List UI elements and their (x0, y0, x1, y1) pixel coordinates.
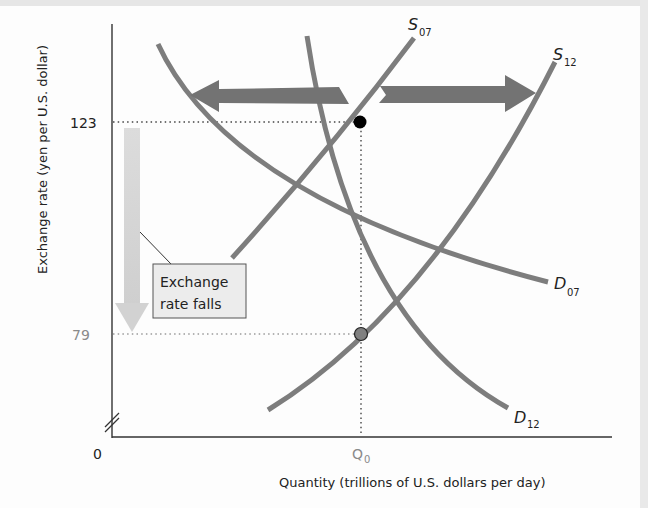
forex-market-diagram: 123 79 0 Q 0 Quantity (trillions of U.S.… (0, 0, 648, 508)
svg-text:12: 12 (527, 419, 540, 430)
exchange-rate-falls-callout: Exchange rate falls (153, 264, 246, 318)
svg-text:S: S (553, 45, 563, 64)
y-tick-123: 123 (70, 115, 97, 131)
demand-decrease-arrow (190, 80, 349, 112)
svg-text:0: 0 (364, 454, 370, 465)
supply-increase-arrow (379, 75, 536, 112)
x-tick-q0: Q 0 (352, 446, 370, 465)
label-d07: D 07 (554, 274, 580, 298)
svg-text:D: D (554, 274, 566, 293)
equilibrium-point-2012 (355, 328, 368, 341)
svg-text:Q: Q (352, 446, 363, 462)
svg-text:07: 07 (419, 27, 432, 38)
label-d12: D 12 (514, 408, 540, 430)
label-s07: S 07 (408, 15, 432, 38)
svg-text:12: 12 (564, 57, 577, 68)
svg-text:rate falls: rate falls (160, 296, 221, 312)
supply-curve-s07 (232, 38, 414, 258)
callout-leader-line (140, 232, 171, 264)
svg-text:S: S (408, 15, 418, 34)
label-s12: S 12 (553, 45, 577, 68)
exchange-rate-falls-arrow (115, 128, 149, 332)
svg-text:Exchange: Exchange (160, 274, 228, 290)
svg-text:07: 07 (567, 287, 580, 298)
x-axis-title: Quantity (trillions of U.S. dollars per … (279, 475, 546, 490)
supply-curve-s12 (268, 62, 555, 410)
y-axis-title: Exchange rate (yen per U.S. dollar) (35, 45, 50, 274)
demand-curve-d07 (158, 44, 548, 282)
svg-text:D: D (514, 408, 526, 427)
y-tick-79: 79 (72, 327, 90, 343)
equilibrium-point-2007 (354, 116, 367, 129)
origin-label: 0 (93, 446, 102, 462)
